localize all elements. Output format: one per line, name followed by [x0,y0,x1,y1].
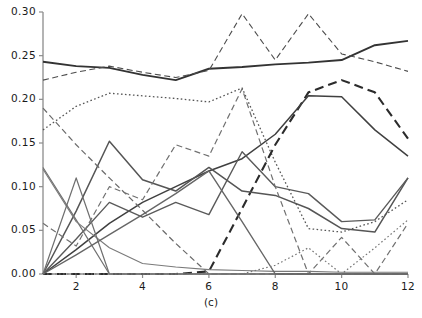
y-axis-tick-label: 0.15 [2,136,36,148]
data-series-line [43,171,408,274]
x-axis-tick-label: 2 [64,280,88,292]
y-axis-tick-label: 0.10 [2,180,36,192]
data-series-line [43,178,408,274]
line-chart-plot [0,0,422,318]
y-axis-tick-label: 0.00 [2,267,36,279]
data-series-line [43,89,408,274]
x-axis-tick-label: 10 [330,280,354,292]
data-series-line [43,108,408,274]
data-series-line [43,88,408,232]
x-axis-tick-label: 4 [131,280,155,292]
data-series-line [43,41,408,80]
x-axis-tick-label: 6 [197,280,221,292]
y-axis-tick-label: 0.05 [2,223,36,235]
x-axis-tick-label: 12 [396,280,420,292]
figure-container: 0.000.050.100.150.200.250.30 24681012 (c… [0,0,422,318]
y-axis-tick-label: 0.20 [2,92,36,104]
axis-lines [43,12,408,274]
data-series-layer [43,14,408,274]
x-axis-tick-label: 8 [263,280,287,292]
y-axis-tick-label: 0.25 [2,49,36,61]
data-series-line [43,14,408,80]
figure-caption: (c) [0,296,422,308]
y-axis-tick-label: 0.30 [2,5,36,17]
